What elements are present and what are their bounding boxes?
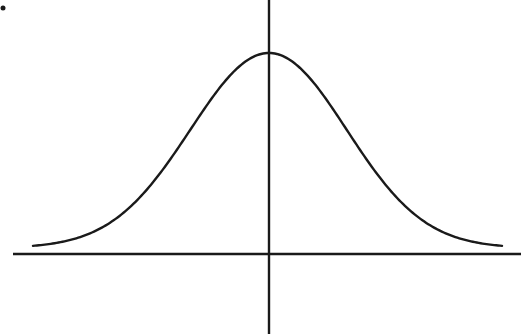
normal-distribution-chart — [0, 0, 521, 334]
stray-dot — [1, 6, 6, 11]
bell-curve-line — [33, 53, 502, 246]
